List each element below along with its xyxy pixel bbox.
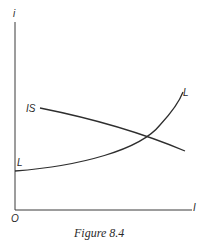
figure-caption: Figure 8.4 [73,226,124,240]
l-curve-label-right: L [183,87,189,98]
y-axis-label: i [13,8,16,19]
is-curve-label: IS [26,103,36,114]
l-curve-label-left: L [17,157,23,168]
is-curve [40,108,185,151]
is-l-diagram: i I O IS L L Figure 8.4 [0,0,206,243]
x-axis-label: I [193,202,196,213]
origin-label: O [11,213,19,224]
l-curve [15,92,183,171]
